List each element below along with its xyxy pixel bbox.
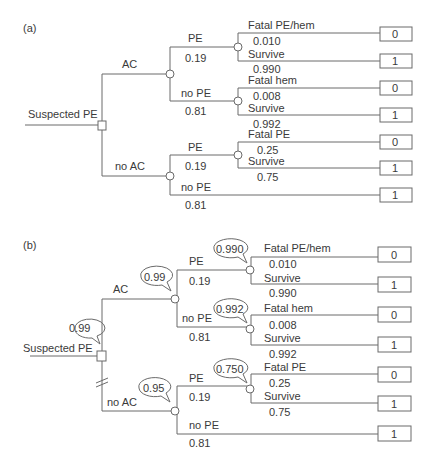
noac-label: no AC xyxy=(107,396,137,408)
root-label: Suspected PE xyxy=(23,342,93,354)
outcome-label: Survive xyxy=(264,272,301,284)
outcome-label: Survive xyxy=(248,102,285,114)
nope-label: no PE xyxy=(181,87,211,99)
terminal-value: 1 xyxy=(391,398,397,410)
pe-prob: 0.19 xyxy=(185,160,206,172)
terminal-value: 1 xyxy=(392,109,398,121)
svg-text:0.990: 0.990 xyxy=(216,243,244,255)
terminal-value: 0 xyxy=(392,136,398,148)
outcome-prob: 0.008 xyxy=(253,90,281,102)
nope-prob: 0.81 xyxy=(185,105,206,117)
chance-node-circle xyxy=(246,325,254,333)
value-bubble: 0.99 xyxy=(69,319,105,344)
chance-node-circle xyxy=(246,385,254,393)
chance-node-circle xyxy=(234,43,242,51)
svg-text:0.99: 0.99 xyxy=(144,271,165,283)
value-bubble: 0.990 xyxy=(214,239,248,263)
ac-label: AC xyxy=(113,283,128,295)
outcome-label: Survive xyxy=(248,48,285,60)
value-bubble: 0.99 xyxy=(141,266,173,291)
terminal-value: 0 xyxy=(391,369,397,381)
terminal-value: 0 xyxy=(391,309,397,321)
nope-prob: 0.81 xyxy=(189,437,210,449)
noac-label: no AC xyxy=(115,160,145,172)
terminal-value: 0 xyxy=(392,82,398,94)
pe-label: PE xyxy=(189,372,204,384)
decision-node-square xyxy=(98,121,106,130)
chance-node-circle xyxy=(234,151,242,159)
nope-label: no PE xyxy=(189,419,219,431)
terminal-boxes: 0 1 0 1 0 1 1 xyxy=(378,247,411,441)
chance-node-circle xyxy=(166,172,174,180)
outcome-prob: 0.008 xyxy=(269,319,297,331)
value-bubble: 0.95 xyxy=(139,378,171,402)
panel-b: (b) 0.99 Suspected PE AC 0.99 PE 0.19 no… xyxy=(23,239,411,449)
root-label: Suspected PE xyxy=(28,108,98,120)
outcome-prob: 0.75 xyxy=(269,406,290,418)
terminal-value: 0 xyxy=(392,28,398,40)
outcome-label: Survive xyxy=(264,390,301,402)
ac-label: AC xyxy=(122,58,137,70)
svg-text:0.750: 0.750 xyxy=(216,363,244,375)
outcome-prob: 0.990 xyxy=(269,287,297,299)
chance-node-circle xyxy=(234,97,242,105)
outcome-label: Fatal hem xyxy=(248,74,297,86)
nope-prob: 0.81 xyxy=(189,331,210,343)
terminal-value: 1 xyxy=(391,279,397,291)
pe-label: PE xyxy=(189,255,204,267)
panel-a: (a) Suspected PE AC PE 0.19 no PE 0.81 F… xyxy=(23,19,412,211)
svg-text:0.992: 0.992 xyxy=(216,303,244,315)
chance-node-circle xyxy=(246,266,254,274)
svg-text:0.99: 0.99 xyxy=(69,322,90,334)
chance-node-circle xyxy=(171,407,179,415)
outcome-label: Fatal hem xyxy=(264,302,313,314)
outcome-prob: 0.010 xyxy=(269,258,297,270)
outcome-label: Survive xyxy=(264,332,301,344)
terminal-value: 1 xyxy=(392,55,398,67)
outcome-label: Fatal PE xyxy=(264,361,306,373)
nope-label: no PE xyxy=(182,312,212,324)
panel-label: (b) xyxy=(23,239,36,251)
chance-node-circle xyxy=(166,70,174,78)
terminal-value: 1 xyxy=(392,162,398,174)
outcome-prob: 0.010 xyxy=(253,35,281,47)
terminal-boxes: 0 1 0 1 0 1 1 xyxy=(380,27,412,202)
value-bubble: 0.750 xyxy=(214,359,248,383)
terminal-value: 1 xyxy=(392,189,398,201)
pe-label: PE xyxy=(188,141,203,153)
decision-tree-figure: (a) Suspected PE AC PE 0.19 no PE 0.81 F… xyxy=(0,0,431,460)
terminal-value: 0 xyxy=(391,249,397,261)
decision-node-square xyxy=(97,351,106,361)
outcome-label: Fatal PE/hem xyxy=(248,19,315,31)
value-bubble: 0.992 xyxy=(214,299,248,323)
pe-label: PE xyxy=(188,32,203,44)
chance-node-circle xyxy=(171,295,179,303)
outcome-label: Survive xyxy=(248,155,285,167)
nope-prob: 0.81 xyxy=(185,199,206,211)
outcome-prob: 0.75 xyxy=(257,171,278,183)
outcome-label: Fatal PE/hem xyxy=(264,242,331,254)
panel-label: (a) xyxy=(23,22,36,34)
pe-prob: 0.19 xyxy=(189,391,210,403)
outcome-prob: 0.992 xyxy=(269,348,297,360)
nope-label: no PE xyxy=(181,181,211,193)
pe-prob: 0.19 xyxy=(189,275,210,287)
outcome-label: Fatal PE xyxy=(248,128,290,140)
svg-text:0.95: 0.95 xyxy=(143,382,164,394)
terminal-value: 1 xyxy=(391,428,397,440)
pe-prob: 0.19 xyxy=(185,52,206,64)
outcome-prob: 0.25 xyxy=(269,377,290,389)
terminal-value: 1 xyxy=(391,339,397,351)
